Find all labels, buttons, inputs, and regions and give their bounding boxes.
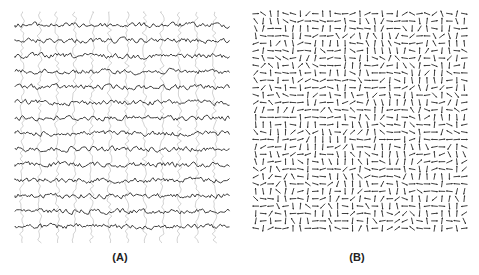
arrow-icon	[292, 225, 294, 232]
arrow-icon	[337, 210, 339, 217]
arrow-icon	[374, 129, 376, 136]
arrow-icon	[359, 62, 361, 69]
arrow-icon	[320, 204, 325, 209]
arrow-icon	[330, 70, 332, 77]
arrow-icon	[359, 151, 361, 158]
arrow-icon	[352, 158, 354, 165]
arrow-icon	[300, 10, 302, 17]
arrow-icon	[431, 64, 437, 67]
arrow-icon	[329, 159, 332, 165]
arrow-icon	[342, 13, 349, 15]
arrow-icon	[418, 129, 420, 136]
arrow-icon	[433, 77, 435, 83]
arrow-icon	[387, 198, 394, 200]
arrow-icon	[439, 124, 446, 126]
arrow-icon	[305, 72, 312, 74]
arrow-icon	[380, 130, 385, 134]
arrow-icon	[314, 121, 316, 128]
arrow-icon	[395, 226, 400, 230]
arrow-icon	[426, 25, 428, 32]
arrow-icon	[307, 158, 309, 165]
arrow-icon	[382, 47, 384, 54]
arrow-icon	[382, 10, 384, 17]
arrow-icon	[433, 40, 436, 46]
arrow-icon	[334, 131, 341, 133]
arrow-icon	[260, 182, 266, 185]
arrow-icon	[263, 47, 265, 54]
arrow-icon	[329, 10, 331, 17]
arrow-icon	[349, 168, 355, 170]
arrow-icon	[454, 108, 459, 112]
arrow-icon	[345, 25, 347, 31]
arrow-icon	[267, 57, 274, 59]
arrow-icon	[337, 99, 339, 106]
arrow-icon	[320, 101, 327, 103]
arrow-icon	[441, 25, 443, 32]
arrow-icon	[410, 226, 415, 230]
arrow-icon	[409, 116, 415, 119]
arrow-icon	[358, 130, 363, 135]
arrow-icon	[262, 25, 264, 31]
arrow-icon	[342, 198, 349, 200]
arrow-icon	[359, 70, 361, 77]
arrow-icon	[366, 92, 368, 99]
arrow-icon	[402, 198, 408, 201]
arrow-icon	[285, 25, 287, 32]
arrow-icon	[343, 167, 348, 172]
arrow-icon	[431, 87, 438, 89]
arrow-icon	[336, 196, 339, 202]
arrow-icon	[461, 13, 468, 15]
arrow-icon	[329, 107, 332, 113]
arrow-icon	[426, 18, 428, 25]
arrow-icon	[439, 43, 446, 45]
arrow-icon	[312, 34, 318, 37]
arrow-icon	[322, 188, 324, 195]
arrow-icon	[382, 203, 384, 210]
arrow-icon	[307, 166, 309, 173]
arrow-icon	[419, 62, 421, 69]
arrow-icon	[396, 10, 398, 17]
arrow-icon	[320, 86, 326, 88]
arrow-icon	[270, 218, 272, 225]
arrow-icon	[462, 212, 468, 216]
arrow-icon	[394, 42, 400, 45]
arrow-icon	[416, 94, 423, 96]
arrow-icon	[418, 70, 420, 76]
arrow-icon	[349, 117, 356, 119]
arrow-icon	[434, 151, 436, 158]
arrow-icon	[446, 123, 452, 126]
arrow-icon	[297, 101, 304, 103]
arrow-icon	[364, 80, 371, 82]
arrow-icon	[461, 139, 468, 141]
arrow-icon	[282, 12, 288, 14]
arrow-icon	[396, 114, 398, 121]
arrow-icon	[372, 205, 379, 207]
arrow-icon	[374, 210, 376, 217]
vertical-trace	[72, 12, 77, 243]
arrow-icon	[300, 203, 302, 210]
arrow-icon	[409, 131, 415, 134]
arrow-icon	[374, 195, 376, 202]
arrow-icon	[424, 116, 430, 119]
arrow-icon	[275, 101, 282, 103]
arrow-icon	[299, 33, 301, 40]
arrow-icon	[367, 218, 369, 225]
arrow-icon	[364, 190, 371, 192]
arrow-icon	[446, 160, 452, 163]
arrow-icon	[260, 116, 267, 118]
arrow-icon	[364, 12, 370, 15]
arrow-icon	[456, 158, 458, 165]
arrow-icon	[270, 18, 272, 24]
arrow-icon	[461, 132, 468, 134]
arrow-icon	[409, 20, 416, 22]
arrow-icon	[456, 151, 458, 158]
arrow-icon	[402, 211, 407, 216]
arrow-icon	[404, 188, 406, 195]
arrow-icon	[461, 35, 468, 37]
arrow-icon	[262, 225, 264, 232]
arrow-icon	[357, 27, 364, 29]
arrow-icon	[416, 13, 423, 15]
arrow-icon	[337, 136, 339, 143]
arrow-icon	[290, 95, 297, 97]
arrow-icon	[379, 87, 386, 89]
